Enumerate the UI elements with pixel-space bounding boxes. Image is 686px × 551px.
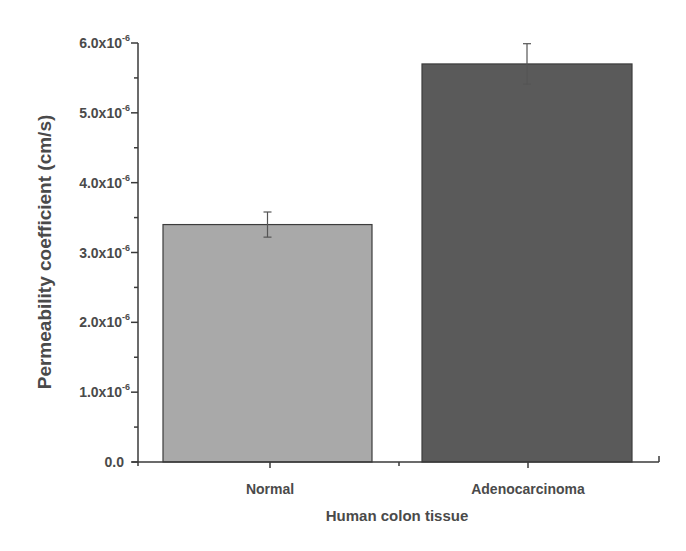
- x-ticks: NormalAdenocarcinoma: [246, 462, 585, 497]
- y-tick-label: 1.0x10-6: [79, 382, 130, 400]
- x-tick-label-normal: Normal: [246, 481, 294, 497]
- bars-group: [163, 64, 632, 462]
- y-tick-label: 6.0x10-6: [79, 33, 130, 51]
- y-tick-label: 2.0x10-6: [79, 312, 130, 330]
- y-tick-label: 0.0: [105, 454, 125, 470]
- y-axis-title: Permeability coefficient (cm/s): [34, 115, 55, 390]
- y-tick-label: 3.0x10-6: [79, 243, 130, 261]
- bar-normal: [163, 225, 372, 462]
- x-axis-title: Human colon tissue: [326, 507, 469, 524]
- bar-chart: 0.01.0x10-62.0x10-63.0x10-64.0x10-65.0x1…: [0, 0, 686, 551]
- y-tick-label: 4.0x10-6: [79, 173, 130, 191]
- y-tick-label: 5.0x10-6: [79, 103, 130, 121]
- bar-adenocarcinoma: [422, 64, 632, 462]
- y-ticks: 0.01.0x10-62.0x10-63.0x10-64.0x10-65.0x1…: [79, 33, 138, 470]
- x-tick-label-adenocarcinoma: Adenocarcinoma: [471, 481, 585, 497]
